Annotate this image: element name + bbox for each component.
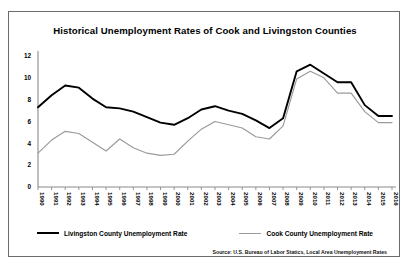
x-tick-2006: 2006	[257, 192, 264, 206]
x-tick-2005: 2005	[243, 192, 250, 206]
x-tick-1998: 1998	[148, 192, 155, 206]
x-axis-tick-labels: 1990199119921993199419951996199719981999…	[39, 192, 400, 206]
legend-label-livingston: Livingston County Unemployment Rate	[64, 230, 187, 237]
x-tick-2001: 2001	[189, 192, 196, 206]
x-tick-2009: 2009	[298, 192, 305, 206]
y-tick-6: 6	[27, 118, 31, 125]
x-tick-2002: 2002	[203, 192, 210, 206]
x-tick-2011: 2011	[325, 192, 332, 206]
x-tick-1991: 1991	[53, 192, 60, 206]
x-tick-1997: 1997	[135, 192, 142, 206]
series-line-cook-county	[38, 71, 392, 155]
legend-swatch-livingston	[37, 232, 59, 234]
x-tick-2012: 2012	[339, 192, 346, 206]
legend-item-cook: Cook County Unemployment Rate	[239, 230, 373, 237]
x-tick-1990: 1990	[39, 192, 46, 206]
y-tick-0: 0	[27, 183, 31, 190]
chart-source-note: Source: U.S. Bureau of Labor Statics, Lo…	[213, 249, 388, 255]
x-tick-2016: 2016	[393, 192, 400, 206]
y-tick-10: 10	[24, 74, 32, 81]
x-tick-2000: 2000	[175, 192, 182, 206]
x-tick-2008: 2008	[284, 192, 291, 206]
x-tick-2007: 2007	[271, 192, 278, 206]
plot-area: 024681012 199019911992199319941995199619…	[9, 12, 401, 258]
y-axis-tick-labels: 024681012	[24, 52, 32, 190]
x-tick-1999: 1999	[162, 192, 169, 206]
line-chart-svg: 024681012 199019911992199319941995199619…	[9, 12, 401, 258]
legend-label-cook: Cook County Unemployment Rate	[266, 230, 373, 237]
series-line-livingston-county	[38, 65, 392, 128]
x-tick-2015: 2015	[380, 192, 387, 206]
chart-legend: Livingston County Unemployment Rate Cook…	[9, 225, 401, 241]
x-tick-2013: 2013	[352, 192, 359, 206]
y-tick-8: 8	[27, 96, 31, 103]
x-tick-2004: 2004	[230, 192, 237, 206]
x-tick-1993: 1993	[80, 192, 87, 206]
x-tick-1996: 1996	[121, 192, 128, 206]
x-tick-1994: 1994	[94, 192, 101, 206]
legend-item-livingston: Livingston County Unemployment Rate	[37, 230, 187, 237]
x-tick-1992: 1992	[66, 192, 73, 206]
y-tick-2: 2	[27, 161, 31, 168]
x-tick-2014: 2014	[366, 192, 373, 206]
y-tick-12: 12	[24, 52, 32, 59]
x-tick-2010: 2010	[312, 192, 319, 206]
y-tick-4: 4	[27, 140, 31, 147]
legend-swatch-cook	[239, 233, 261, 234]
x-tick-1995: 1995	[107, 192, 114, 206]
x-tick-2003: 2003	[216, 192, 223, 206]
chart-frame: Historical Unemployment Rates of Cook an…	[8, 11, 400, 257]
